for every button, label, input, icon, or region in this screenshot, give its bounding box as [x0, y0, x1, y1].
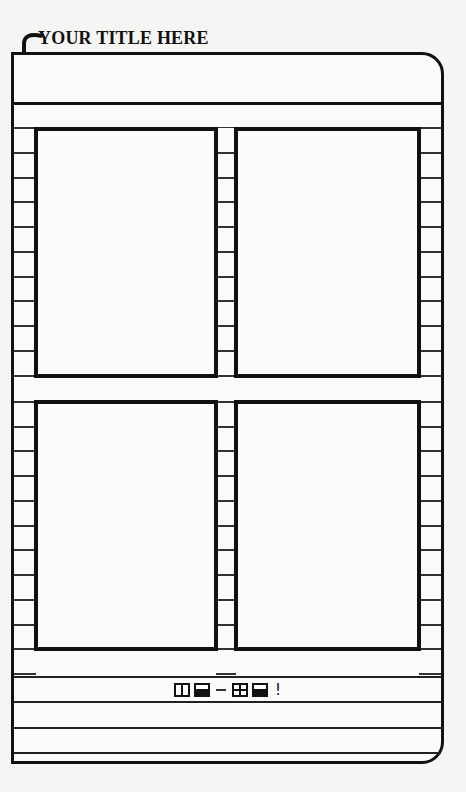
right-film-strip	[419, 127, 441, 678]
header-divider	[14, 102, 441, 105]
panel-bottom-right[interactable]	[234, 400, 421, 651]
two-panel-box-icon	[174, 683, 190, 697]
exclamation-mark: !	[275, 681, 281, 699]
panel-top-left[interactable]	[34, 127, 218, 378]
dash-icon	[216, 689, 226, 691]
panel-bottom-left[interactable]	[34, 400, 218, 651]
comic-sheet: !	[11, 52, 444, 764]
footer-symbols: !	[14, 678, 441, 702]
footer-line-3	[14, 727, 441, 729]
page-title: YOUR TITLE HERE	[38, 28, 209, 49]
left-film-strip	[14, 127, 36, 678]
four-panel-box-icon	[232, 683, 248, 697]
half-filled-box-icon	[252, 683, 268, 697]
middle-film-strip	[216, 127, 236, 678]
footer-line-4	[14, 752, 441, 754]
half-filled-box-icon	[194, 683, 210, 697]
panel-top-right[interactable]	[234, 127, 421, 378]
